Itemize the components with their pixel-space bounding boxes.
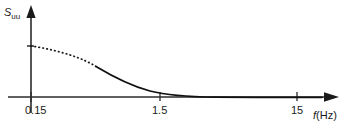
spectrum-curve-dotted [31, 46, 96, 66]
x-axis-label-units: (Hz) [316, 109, 337, 121]
x-tick-label-0: 0.15 [25, 104, 46, 116]
x-tick-label-2: 15 [291, 104, 303, 116]
spectrum-curve-solid [96, 66, 322, 97]
x-axis-arrow-icon [324, 92, 339, 102]
spectrum-chart-svg: Suu 0.15 1.5 15 f(Hz) [0, 0, 350, 134]
spectrum-figure: Suu 0.15 1.5 15 f(Hz) [0, 0, 350, 134]
y-axis-label-subscript: uu [11, 12, 20, 21]
x-tick-label-1: 1.5 [152, 104, 167, 116]
y-axis-label: Suu [4, 6, 20, 21]
y-axis-arrow-icon [26, 5, 35, 18]
x-axis-label: f(Hz) [313, 109, 337, 121]
